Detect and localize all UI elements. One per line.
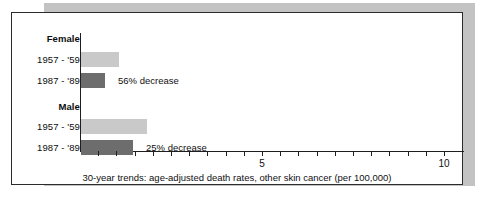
x-axis-tick [189, 151, 190, 156]
x-axis-tick [371, 151, 372, 156]
chart-figure-frame: Female 1957 - '59 1987 - '89 Male 1957 -… [11, 12, 463, 185]
x-axis-tick [171, 151, 172, 156]
x-tick-label-10: 10 [438, 158, 449, 169]
x-axis-tick [426, 151, 427, 156]
category-label-male-late: 1987 - '89 [12, 142, 80, 153]
bar-female-1957-59 [81, 52, 119, 67]
x-axis-tick [444, 151, 445, 156]
x-axis-tick [244, 151, 245, 156]
x-axis-tick [226, 151, 227, 156]
category-label-female-early: 1957 - '59 [12, 54, 80, 65]
x-axis-tick [135, 151, 136, 156]
chart-caption: 30-year trends: age-adjusted death rates… [12, 172, 462, 183]
x-axis-tick [353, 151, 354, 156]
category-label-male-early: 1957 - '59 [12, 121, 80, 132]
chart-plot-area: Female 1957 - '59 1987 - '89 Male 1957 -… [12, 13, 462, 184]
group-label-female: Female [12, 33, 80, 44]
x-axis-line [80, 151, 464, 152]
x-axis-tick [408, 151, 409, 156]
x-axis-tick [335, 151, 336, 156]
x-axis-tick [317, 151, 318, 156]
annotation-female-decrease: 56% decrease [118, 75, 179, 86]
category-axis-labels: Female 1957 - '59 1987 - '89 Male 1957 -… [12, 13, 80, 184]
x-tick-label-5: 5 [259, 158, 265, 169]
x-axis-tick [262, 151, 263, 156]
bar-female-1987-89 [81, 73, 105, 88]
category-label-female-late: 1987 - '89 [12, 75, 80, 86]
x-axis-tick [298, 151, 299, 156]
x-axis-tick [98, 151, 99, 156]
bar-male-1957-59 [81, 119, 147, 134]
x-axis-tick [153, 151, 154, 156]
x-axis-tick [116, 151, 117, 156]
x-axis-tick [389, 151, 390, 156]
bar-male-1987-89 [81, 140, 133, 155]
annotation-male-decrease: 25% decrease [146, 142, 207, 153]
x-axis-tick [280, 151, 281, 156]
group-label-male: Male [12, 101, 80, 112]
x-axis-tick [207, 151, 208, 156]
